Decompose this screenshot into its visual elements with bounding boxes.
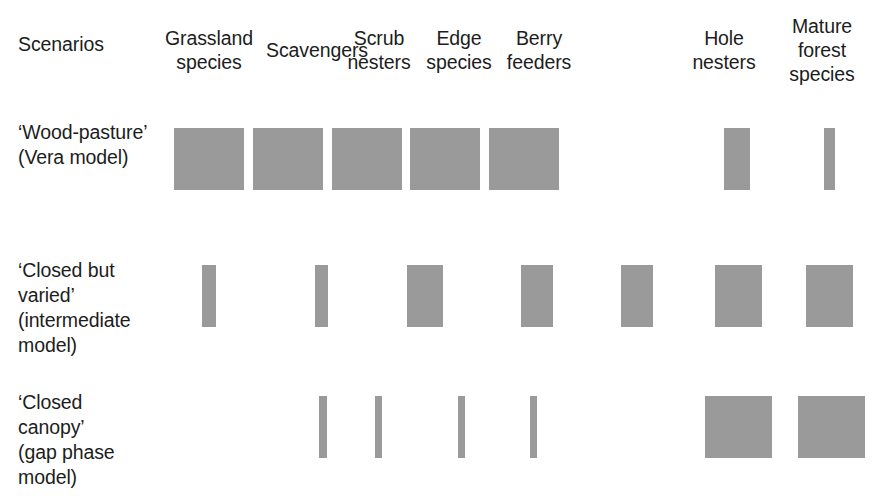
bar-closed-but-varied-intermediate-model-mature-forest-species: [806, 265, 853, 327]
bar-wood-pasture-vera-model-mature-forest-species: [824, 128, 835, 190]
bar-closed-but-varied-intermediate-model-scavengers: [315, 265, 328, 327]
bar-closed-but-varied-intermediate-model-hole-nesters: [715, 265, 762, 327]
bar-wood-pasture-vera-model-grassland-species: [174, 128, 244, 190]
column-header-mature-forest-species: Mature forest species: [770, 14, 874, 86]
row-label-closed-canopy: ‘Closed canopy’ (gap phase model): [18, 390, 168, 490]
bar-closed-but-varied-intermediate-model-grassland-species: [202, 265, 216, 327]
bar-closed-canopy-gap-phase-model-scavengers: [319, 396, 327, 458]
row-label-wood-pasture: ‘Wood-pasture’ (Vera model): [18, 120, 168, 170]
bar-wood-pasture-vera-model-berry-feeders: [489, 128, 559, 190]
bar-closed-but-varied-intermediate-model-berry-feeders: [621, 265, 653, 327]
bar-wood-pasture-vera-model-hole-nesters: [724, 128, 750, 190]
bar-closed-canopy-gap-phase-model-scrub-nesters: [375, 396, 382, 458]
bar-closed-canopy-gap-phase-model-mature-forest-species: [798, 396, 865, 458]
bar-wood-pasture-vera-model-scrub-nesters: [332, 128, 402, 190]
row-label-closed-but-varied: ‘Closed but varied’ (intermediate model): [18, 258, 168, 358]
bar-closed-but-varied-intermediate-model-scrub-nesters: [407, 265, 443, 327]
bar-closed-but-varied-intermediate-model-edge-species: [521, 265, 553, 327]
bar-wood-pasture-vera-model-edge-species: [410, 128, 480, 190]
bar-wood-pasture-vera-model-scavengers: [253, 128, 323, 190]
column-header-grassland-species: Grassland species: [160, 26, 258, 74]
bar-closed-canopy-gap-phase-model-hole-nesters: [705, 396, 772, 458]
column-header-berry-feeders: Berry feeders: [490, 26, 588, 74]
scenarios-bar-matrix-figure: Scenarios Grassland species Scavengers S…: [0, 0, 892, 499]
column-header-hole-nesters: Hole nesters: [675, 26, 773, 74]
column-header-scenarios: Scenarios: [18, 32, 104, 56]
bar-closed-canopy-gap-phase-model-edge-species: [458, 396, 465, 458]
bar-closed-canopy-gap-phase-model-berry-feeders: [530, 396, 537, 458]
